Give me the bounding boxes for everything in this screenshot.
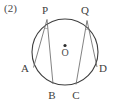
figure-screenshot: (2) O P Q A B C D [0, 0, 125, 110]
chord-pa [34, 20, 48, 68]
geometry-diagram: O P Q A B C D [0, 0, 125, 110]
chord-pb [47, 20, 53, 85]
point-label-q: Q [81, 4, 89, 16]
point-label-c: C [72, 89, 79, 101]
point-label-b: B [48, 89, 55, 101]
point-label-d: D [99, 62, 107, 74]
point-label-a: A [21, 62, 29, 74]
point-label-p: P [42, 4, 48, 16]
chord-qd [87, 21, 97, 68]
chord-qc [76, 21, 87, 85]
point-label-o: O [61, 47, 68, 58]
